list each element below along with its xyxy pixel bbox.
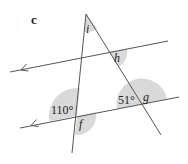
top-parallel-line: [10, 41, 168, 72]
right-transversal: [86, 14, 161, 135]
parallel-lines-diagram: c i h 110° f 51° g: [0, 0, 188, 164]
angle-110-label: 110°: [51, 103, 74, 117]
angle-g-label: g: [143, 90, 149, 104]
top-line-arrow-icon: [21, 64, 29, 71]
part-label: c: [31, 12, 37, 27]
bottom-parallel-line: [20, 97, 179, 128]
angle-h-label: h: [114, 51, 120, 65]
angle-i-label: i: [86, 22, 89, 36]
angle-51-label: 51°: [118, 93, 135, 107]
